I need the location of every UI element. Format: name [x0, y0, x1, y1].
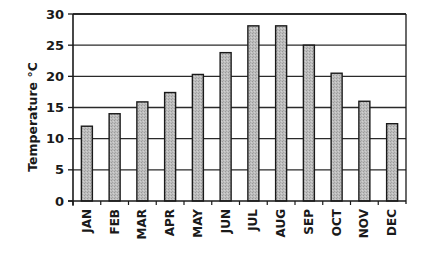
bar-jun — [220, 53, 231, 201]
bar-jul — [248, 26, 259, 201]
x-tick-label: JUN — [219, 209, 233, 234]
gridlines — [73, 14, 406, 170]
y-axis-ticks: 051015202530 — [46, 7, 73, 209]
bar-feb — [109, 114, 120, 201]
y-tick-label: 30 — [46, 7, 64, 22]
y-tick-label: 20 — [46, 69, 64, 84]
x-axis-ticks: JANFEBMARAPRMAYJUNJULAUGSEPOCTNOVDEC — [73, 201, 399, 239]
bar-apr — [165, 93, 176, 201]
x-tick-label: MAR — [135, 209, 149, 239]
bar-mar — [137, 102, 148, 201]
x-tick-label: OCT — [330, 208, 344, 236]
x-tick-label: FEB — [108, 209, 122, 235]
bar-nov — [359, 101, 370, 201]
x-tick-label: DEC — [385, 209, 399, 236]
x-tick-label: MAY — [191, 209, 205, 238]
y-tick-label: 10 — [46, 131, 64, 146]
y-tick-label: 15 — [46, 100, 64, 115]
x-tick-label: APR — [163, 209, 177, 236]
y-tick-label: 0 — [55, 194, 64, 209]
bar-may — [192, 74, 203, 201]
y-tick-label: 5 — [55, 162, 64, 177]
bar-sep — [303, 45, 314, 201]
y-axis-title: Temperature °C — [25, 62, 40, 172]
bar-oct — [331, 73, 342, 201]
y-tick-label: 25 — [46, 38, 64, 53]
bar-dec — [387, 124, 398, 201]
x-tick-label: AUG — [274, 209, 288, 238]
temperature-bar-chart: 051015202530 JANFEBMARAPRMAYJUNJULAUGSEP… — [0, 0, 424, 265]
x-tick-label: JAN — [80, 209, 94, 234]
x-tick-label: JUL — [246, 209, 260, 232]
x-tick-label: NOV — [357, 208, 371, 238]
x-tick-label: SEP — [302, 209, 316, 235]
bar-jan — [81, 126, 92, 201]
bar-series — [81, 26, 397, 201]
bar-aug — [276, 26, 287, 201]
